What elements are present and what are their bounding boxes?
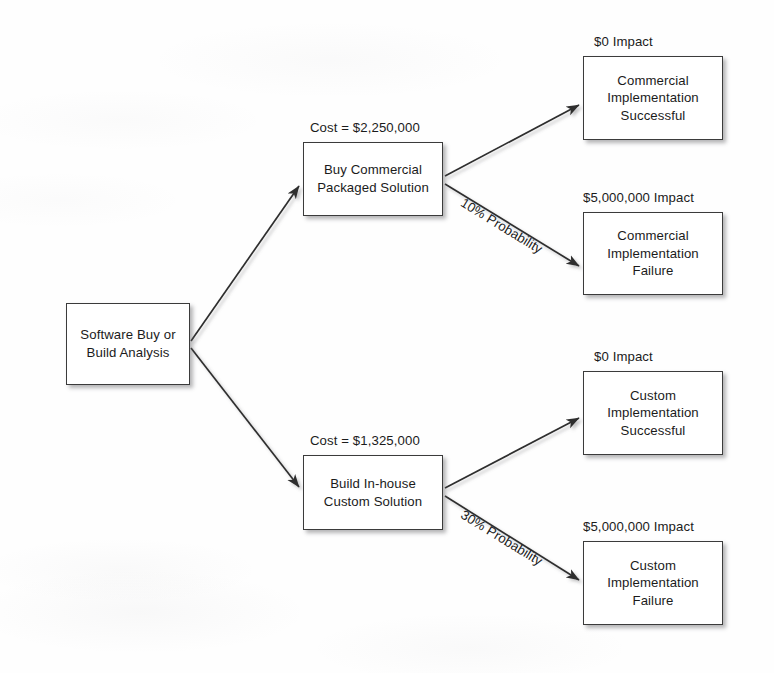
edge-root-to-buy: [191, 186, 299, 341]
node-buy-commercial[interactable]: Buy Commercial Packaged Solution: [303, 142, 443, 216]
node-custom-failure[interactable]: Custom Implementation Failure: [583, 541, 723, 625]
caption-custom-failure-impact: $5,000,000 Impact: [583, 519, 694, 535]
node-root-label: Software Buy or Build Analysis: [74, 326, 181, 361]
node-commercial-success-label: Commercial Implementation Successful: [601, 72, 705, 125]
caption-build-cost: Cost = $1,325,000: [310, 433, 420, 449]
caption-buy-cost: Cost = $2,250,000: [310, 120, 420, 136]
edge-build-to-custom-success: [445, 418, 579, 488]
node-custom-failure-label: Custom Implementation Failure: [601, 557, 705, 610]
node-custom-success[interactable]: Custom Implementation Successful: [583, 371, 723, 455]
node-buy-commercial-label: Buy Commercial Packaged Solution: [311, 161, 435, 196]
node-commercial-success[interactable]: Commercial Implementation Successful: [583, 56, 723, 140]
caption-commercial-failure-impact: $5,000,000 Impact: [583, 190, 694, 206]
node-commercial-failure-label: Commercial Implementation Failure: [601, 227, 705, 280]
edge-buy-to-commercial-success: [445, 105, 579, 176]
node-build-custom-label: Build In-house Custom Solution: [318, 475, 428, 510]
edge-root-to-build: [191, 348, 299, 487]
caption-custom-success-impact: $0 Impact: [594, 349, 653, 365]
node-commercial-failure[interactable]: Commercial Implementation Failure: [583, 212, 723, 295]
node-root[interactable]: Software Buy or Build Analysis: [66, 303, 190, 385]
node-build-custom[interactable]: Build In-house Custom Solution: [303, 455, 443, 530]
caption-commercial-success-impact: $0 Impact: [594, 34, 653, 50]
node-custom-success-label: Custom Implementation Successful: [601, 387, 705, 440]
decision-tree-diagram: Software Buy or Build Analysis Cost = $2…: [0, 0, 774, 673]
